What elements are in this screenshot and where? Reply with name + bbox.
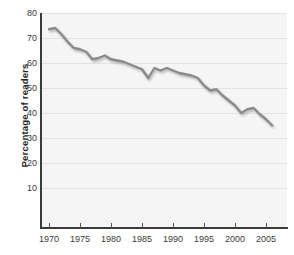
y-tick-label: 70 — [1, 33, 37, 43]
gridline — [41, 188, 287, 189]
y-tick-label: 60 — [1, 58, 37, 68]
y-tick-label: 30 — [1, 133, 37, 143]
x-tick-mark — [173, 223, 174, 228]
y-tick-label: 20 — [1, 158, 37, 168]
line-chart: Percentage of readers 8070605040302010 1… — [0, 0, 294, 255]
gridline — [41, 63, 287, 64]
gridline — [41, 138, 287, 139]
x-tick-mark — [111, 223, 112, 228]
x-tick-mark — [142, 223, 143, 228]
gridline — [41, 88, 287, 89]
gridline — [41, 113, 287, 114]
y-axis-line — [40, 13, 42, 229]
y-tick-label: 40 — [1, 108, 37, 118]
gridline — [41, 13, 287, 14]
gridline — [41, 38, 287, 39]
y-axis-tick-labels: 8070605040302010 — [0, 0, 37, 255]
plot-area — [41, 13, 287, 228]
x-tick-mark — [235, 223, 236, 228]
y-tick-label: 80 — [1, 8, 37, 18]
x-tick-mark — [204, 223, 205, 228]
x-axis-line — [40, 227, 288, 229]
y-tick-label: 50 — [1, 83, 37, 93]
x-tick-mark — [80, 223, 81, 228]
x-tick-mark — [49, 223, 50, 228]
x-tick-label: 2005 — [246, 234, 286, 244]
x-tick-mark — [266, 223, 267, 228]
gridline — [41, 163, 287, 164]
y-tick-label: 10 — [1, 183, 37, 193]
